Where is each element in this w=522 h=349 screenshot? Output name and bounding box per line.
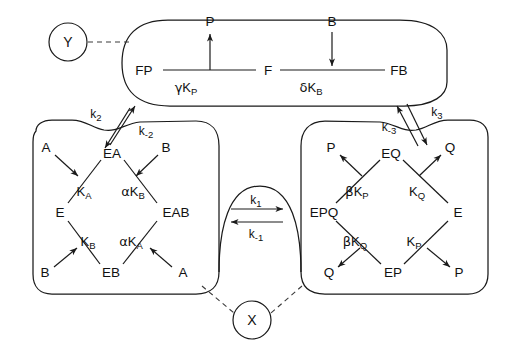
svg-text:KB: KB xyxy=(80,234,95,251)
node-label-epq: EPQ xyxy=(310,205,339,220)
node-label-ea: EA xyxy=(103,146,121,161)
ligand-label-b-in: B xyxy=(327,14,336,29)
regulator-label-y: Y xyxy=(63,34,73,50)
greek-alpha-ka: α xyxy=(119,234,128,249)
arrow-p-release-upper xyxy=(340,155,362,176)
ligand-label-a-top: A xyxy=(41,140,50,155)
const-base-kp-r: K xyxy=(406,234,415,249)
constant-kq: KQ xyxy=(409,184,425,201)
svg-text:KP: KP xyxy=(406,234,421,251)
const-base-kq: K xyxy=(409,184,418,199)
arrow-a-bind-lower xyxy=(150,248,172,267)
node-label-f: F xyxy=(264,63,272,78)
ligand-label-a-bottom: A xyxy=(178,265,187,280)
constant-beta-kp: βKP xyxy=(345,184,368,201)
regulator-label-x: X xyxy=(247,312,257,328)
constant-kp-right: KP xyxy=(406,234,421,251)
constant-beta-kq: βKQ xyxy=(343,234,367,251)
svg-text:δKB: δKB xyxy=(300,80,323,97)
node-label-ep: EP xyxy=(384,265,402,280)
const-sub-kb: B xyxy=(89,240,95,251)
constant-alpha-kb: αKB xyxy=(121,184,145,201)
svg-text:KA: KA xyxy=(76,184,92,201)
ligand-label-p-lower: P xyxy=(454,265,463,280)
rate-constant-group: k1 k-1 k2 k-2 k-3 k3 xyxy=(90,104,442,243)
const-sub-bkq: Q xyxy=(360,240,367,251)
const-base-bkq: K xyxy=(351,234,360,249)
node-label-fb: FB xyxy=(390,63,407,78)
arrow-q-release-lower xyxy=(338,248,360,267)
rate-sub-km1: -1 xyxy=(255,232,263,243)
const-sub-kb-top: B xyxy=(316,86,322,97)
const-base-kp: K xyxy=(182,80,191,95)
ligand-label-p-out: P xyxy=(205,14,214,29)
const-sub-bkp: P xyxy=(362,190,368,201)
svg-text:αKB: αKB xyxy=(121,184,145,201)
dashed-link-x-right xyxy=(271,286,302,313)
const-sub-ka: A xyxy=(85,190,92,201)
arrow-k-minus-3 xyxy=(397,106,418,146)
rate-sub-km3: -3 xyxy=(388,125,396,136)
const-base-akb: K xyxy=(130,184,139,199)
const-base-aka: K xyxy=(128,234,137,249)
ligand-label-b-top: B xyxy=(161,140,170,155)
node-label-eb: EB xyxy=(102,265,120,280)
dashed-link-x-left xyxy=(202,286,234,313)
rate-sub-k2: 2 xyxy=(96,112,101,123)
const-base-bkp: K xyxy=(354,184,363,199)
constant-alpha-ka: αKA xyxy=(119,234,143,251)
const-sub-aka: A xyxy=(136,240,143,251)
rate-label-k-minus-2: k-2 xyxy=(139,124,153,140)
top-scheme: FP F FB P B γKP δKB xyxy=(135,14,407,97)
svg-text:βKP: βKP xyxy=(345,184,368,201)
constant-delta-kb: δKB xyxy=(300,80,323,97)
left-diamond-scheme: EA E EAB EB A B B A KA αKB KB xyxy=(40,140,189,280)
diagram-canvas: Y X FP F FB P B xyxy=(0,0,522,349)
svg-text:KQ: KQ xyxy=(409,184,425,201)
constant-kb: KB xyxy=(80,234,95,251)
rate-sub-k1: 1 xyxy=(256,198,261,209)
arrow-k2 xyxy=(110,106,135,145)
arrow-b-bind-upper xyxy=(136,155,158,176)
right-diamond-scheme: EQ EPQ E EP P Q Q P βKP KQ βKQ xyxy=(310,140,464,280)
rate-sub-km2: -2 xyxy=(145,129,153,140)
rate-label-k2: k2 xyxy=(90,107,101,123)
arrow-a-bind-upper xyxy=(55,155,78,176)
arrow-p-release-lower xyxy=(427,248,450,267)
greek-alpha-kb: α xyxy=(121,184,130,199)
rate-label-k1: k1 xyxy=(250,193,261,209)
rate-sub-k3: 3 xyxy=(437,110,442,121)
const-sub-kp: P xyxy=(191,86,197,97)
node-label-e-right: E xyxy=(453,205,462,220)
rate-label-k-minus-1: k-1 xyxy=(249,227,263,243)
node-label-eq: EQ xyxy=(381,146,401,161)
arrow-k-minus-2 xyxy=(105,108,130,148)
greek-beta-kq: β xyxy=(343,234,351,249)
ligand-label-p-upper: P xyxy=(326,140,335,155)
svg-text:αKA: αKA xyxy=(119,234,143,251)
compartment-outlines xyxy=(33,20,488,294)
node-label-e-left: E xyxy=(55,205,64,220)
constant-gamma-kp: γKP xyxy=(175,80,198,97)
svg-text:βKQ: βKQ xyxy=(343,234,367,251)
enzyme-scheme-diagram: Y X FP F FB P B xyxy=(0,0,522,349)
const-sub-kq: Q xyxy=(418,190,425,201)
svg-text:γKP: γKP xyxy=(175,80,198,97)
const-base-kb: K xyxy=(80,234,89,249)
greek-beta-kp: β xyxy=(345,184,353,199)
arrow-q-release-upper xyxy=(419,155,441,176)
constant-ka: KA xyxy=(76,184,92,201)
node-label-fp: FP xyxy=(135,63,152,78)
const-base-kb-top: K xyxy=(307,80,316,95)
arrow-k3 xyxy=(407,104,427,145)
ligand-label-b-bottom: B xyxy=(40,265,49,280)
greek-delta: δ xyxy=(300,80,308,95)
const-sub-kp-r: P xyxy=(415,240,421,251)
rate-label-k-minus-3: k-3 xyxy=(382,120,396,136)
const-base-ka: K xyxy=(76,184,85,199)
arrow-b-bind-lower xyxy=(54,248,77,267)
node-label-eab: EAB xyxy=(162,205,189,220)
ligand-label-q-upper: Q xyxy=(445,140,456,155)
const-sub-akb: B xyxy=(138,190,144,201)
ligand-label-q-lower: Q xyxy=(324,265,335,280)
